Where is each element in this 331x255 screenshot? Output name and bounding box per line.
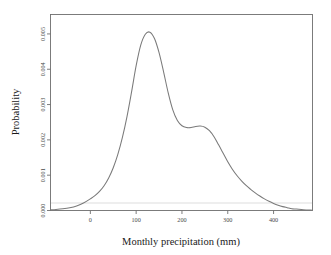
y-tick-label: 0.001 <box>39 168 46 182</box>
x-tick-label: 0 <box>89 216 92 223</box>
y-tick-label: 0.002 <box>39 133 46 147</box>
y-tick-label: 0.005 <box>39 27 46 41</box>
x-tick-label: 300 <box>223 216 232 223</box>
density-plot-figure: 0.0000.0010.0020.0030.0040.005 010020030… <box>0 0 331 255</box>
x-tick-label: 200 <box>177 216 186 223</box>
x-tick-label: 100 <box>132 216 141 223</box>
y-tick-label: 0.004 <box>39 62 46 76</box>
y-tick-label: 0.000 <box>39 204 46 218</box>
y-tick-label: 0.003 <box>39 98 46 112</box>
x-axis-title: Monthly precipitation (mm) <box>122 236 240 248</box>
figure-background <box>0 0 331 255</box>
x-tick-label: 400 <box>269 216 278 223</box>
y-axis-title: Probability <box>10 88 21 135</box>
plot-canvas: 0.0000.0010.0020.0030.0040.005 010020030… <box>0 0 331 255</box>
